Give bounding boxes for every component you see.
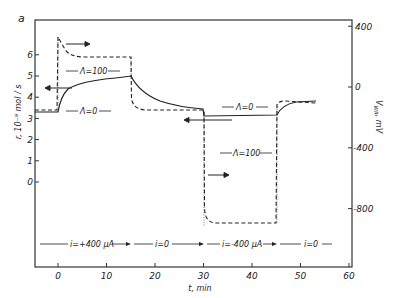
left-tick-label: 5: [27, 71, 33, 81]
current-label: i=0: [304, 240, 318, 249]
right-tick-labels: 400 0 -400 -800: [353, 22, 374, 214]
plot-frame: [35, 20, 352, 267]
lambda-label: Λ=100: [79, 67, 107, 76]
x-tick-label: 40: [246, 271, 258, 281]
right-tick-label: 400: [355, 22, 372, 32]
x-tick-label: 10: [101, 271, 113, 281]
x-tick-label: 30: [198, 271, 210, 281]
right-tick-label: -400: [353, 143, 374, 153]
lambda-label: Λ=100: [232, 149, 260, 158]
panel-label: a: [18, 12, 25, 25]
x-axis-label: t, min: [188, 284, 211, 293]
arrow-left-icon: [184, 118, 189, 123]
lambda-label: Λ=0: [79, 107, 97, 116]
left-axis-label: r, 10⁻⁹ mol / s: [14, 85, 23, 140]
left-tick-label: 6: [27, 50, 33, 60]
lambda-label: Λ=0: [235, 103, 253, 112]
left-tick-label: 4: [27, 92, 33, 102]
left-tick-label: 1: [27, 156, 33, 166]
left-tick-label: 0: [27, 177, 33, 187]
left-tick-labels: 6 5 4 3 2 1 0: [27, 50, 33, 187]
svg-text:VWR, mV: VWR, mV: [373, 100, 383, 134]
left-tick-label: 2: [27, 135, 33, 145]
x-tick-label: 60: [343, 271, 355, 281]
x-axis-ticks: [58, 263, 349, 267]
current-label: i=-400 µA: [222, 240, 262, 249]
arrow-right-icon: [85, 42, 90, 47]
chart: a 0 10 20 30 40 50 60 t, min 6 5 4 3 2 1: [0, 0, 400, 298]
current-label: i=+400 µA: [70, 240, 114, 249]
x-tick-label: 50: [295, 271, 307, 281]
right-tick-label: 0: [355, 82, 361, 92]
current-label: i=0: [155, 240, 169, 249]
current-intervals: i=+400 µA i=0 i=-400 µA i=0: [40, 240, 332, 249]
switch-markers: [58, 37, 277, 226]
x-tick-labels: 0 10 20 30 40 50 60: [55, 271, 355, 281]
arrow-right-icon: [224, 173, 229, 178]
series-vwr-dashed: [35, 37, 316, 223]
right-tick-label: -800: [353, 204, 374, 214]
left-tick-label: 3: [27, 114, 33, 124]
right-axis-label: VWR, mV: [373, 100, 383, 134]
arrow-left-icon: [45, 86, 50, 91]
x-tick-label: 0: [55, 271, 61, 281]
x-tick-label: 20: [149, 271, 161, 281]
